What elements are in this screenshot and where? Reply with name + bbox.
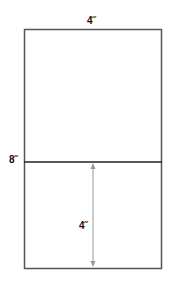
measure-arrow: [91, 163, 96, 267]
diagram-canvas: [0, 0, 171, 308]
arrow-up-icon: [91, 163, 96, 169]
top-width-label: 4˝: [87, 15, 96, 26]
arrow-down-icon: [91, 261, 96, 267]
left-height-label: 8˝: [9, 154, 18, 165]
inner-measure-label: 4˝: [79, 220, 88, 231]
